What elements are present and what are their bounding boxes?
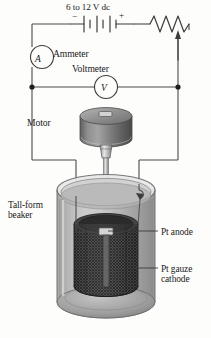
voltmeter-label: Voltmeter [72,64,109,74]
anode-label: Pt anode [161,227,193,237]
beaker-label: Tall-formbeaker [8,200,43,220]
variable-resistor-symbol [150,16,189,60]
ammeter-glyph: A [35,54,41,64]
cathode-label-line2: cathode [161,274,189,284]
cathode-label-line1: Pt gauze [161,264,192,274]
cathode-label: Pt gauzecathode [161,264,192,284]
battery-positive-sign: + [119,10,124,20]
apparatus-drawing [0,0,211,338]
electrodeposition-apparatus-figure: 6 to 12 V dc − + A Ammeter V Voltmeter M… [0,0,211,338]
beaker-label-line2: beaker [8,210,32,220]
voltmeter-glyph: V [101,83,107,93]
battery-negative-sign: − [72,11,77,21]
motor-label: Motor [27,118,51,128]
ammeter-label: Ammeter [53,49,89,59]
ammeter-symbol [31,46,54,69]
beaker-label-line1: Tall-form [8,200,43,210]
stirring-motor [80,108,132,147]
